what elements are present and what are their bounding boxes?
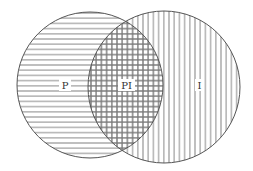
label-p: P — [62, 80, 69, 91]
label-pi: PI — [121, 80, 132, 91]
label-i: I — [198, 80, 202, 91]
venn-diagram: P PI I — [0, 0, 253, 171]
